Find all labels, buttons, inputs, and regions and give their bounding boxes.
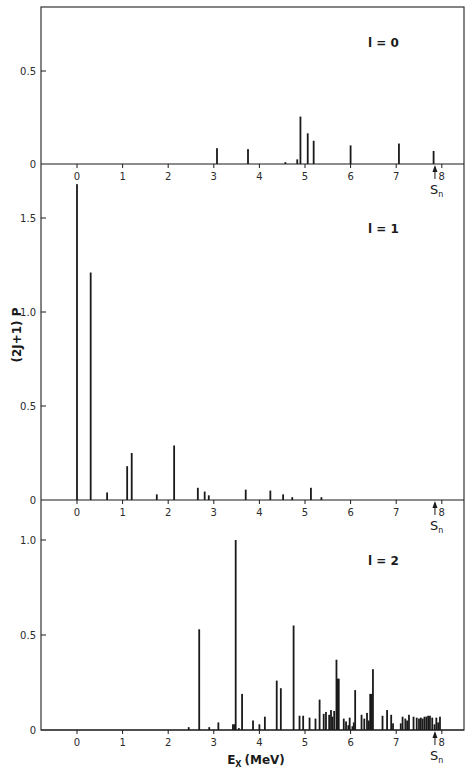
strength-bar (338, 679, 340, 730)
strength-bar (331, 717, 333, 730)
strength-bar (350, 145, 352, 164)
strength-bar (325, 712, 327, 730)
y-tick-label: 0.5 (20, 630, 36, 641)
strength-bar (408, 715, 410, 730)
strength-bar (349, 718, 351, 730)
sn-label-sub: n (438, 526, 443, 535)
strength-bar (345, 721, 347, 730)
strength-bar (366, 713, 368, 730)
strength-bar (363, 719, 365, 730)
strength-bar (321, 497, 323, 500)
x-tick-label: 5 (302, 171, 308, 182)
strength-bar (269, 491, 271, 500)
strength-bar (361, 715, 363, 730)
x-tick-label: 2 (165, 507, 171, 518)
strength-bar (238, 728, 240, 730)
strength-bar (439, 717, 441, 730)
sn-label: Sn (430, 182, 443, 199)
strength-bar (204, 492, 206, 500)
y-tick-label: 1.5 (20, 213, 36, 224)
x-tick-label: 2 (165, 737, 171, 748)
y-tick-label: 0 (30, 495, 36, 506)
strength-bar (235, 540, 237, 730)
panel-label: l = 2 (368, 554, 399, 568)
strength-bar (307, 133, 309, 164)
y-tick-label: 0.5 (20, 401, 36, 412)
strength-bar (259, 724, 261, 730)
strength-bar (437, 722, 439, 730)
y-tick-label: 0 (30, 159, 36, 170)
strength-bar (282, 494, 284, 500)
x-tick-label: 7 (393, 737, 399, 748)
strength-bar (245, 490, 247, 500)
x-tick-label: 6 (347, 171, 353, 182)
plot-frame (41, 7, 464, 730)
strength-bar (390, 715, 392, 730)
x-tick-label: 8 (439, 171, 445, 182)
panel-l2: 00.51.0012345678Snl = 2 (20, 535, 464, 765)
x-tick-label: 7 (393, 171, 399, 182)
strength-bar (217, 722, 219, 730)
x-tick-label: 2 (165, 171, 171, 182)
strength-bar (197, 488, 199, 500)
strength-bar (431, 718, 433, 730)
sn-label: Sn (430, 748, 443, 765)
strength-bar (434, 724, 436, 730)
x-tick-label: 0 (74, 507, 80, 518)
y-tick-label: 1.0 (20, 535, 36, 546)
strength-bar (313, 141, 315, 164)
strength-bar (131, 453, 133, 500)
strength-bar (402, 717, 404, 730)
x-tick-label: 7 (393, 507, 399, 518)
strength-bar (252, 721, 254, 731)
strength-bar (425, 717, 427, 730)
strength-bar (404, 719, 406, 730)
strength-bar (372, 669, 374, 730)
strength-bar (416, 718, 418, 730)
x-tick-label: 1 (119, 737, 125, 748)
x-axis-title-unit: (MeV) (245, 753, 285, 767)
strength-bar (400, 723, 402, 730)
strength-bar (106, 492, 108, 500)
x-tick-label: 3 (211, 737, 217, 748)
strength-bar (90, 273, 92, 500)
strength-bar (241, 694, 243, 730)
x-tick-label: 6 (347, 737, 353, 748)
strength-bar (188, 727, 190, 730)
strength-bar (216, 148, 218, 164)
strength-bar (173, 445, 175, 500)
strength-bar (382, 716, 384, 730)
strength-bar (429, 716, 431, 730)
strength-bar (424, 717, 426, 730)
strength-bar (247, 149, 249, 164)
strength-bar (420, 718, 422, 730)
strength-bar (310, 488, 312, 500)
strength-bar (418, 719, 420, 730)
figure-frame (41, 7, 464, 730)
strength-bar (76, 184, 78, 500)
strength-bar (319, 700, 321, 730)
x-tick-label: 8 (439, 507, 445, 518)
strength-bar (284, 162, 286, 164)
strength-bar (302, 716, 304, 730)
strength-bar (333, 711, 335, 730)
x-tick-label: 0 (74, 171, 80, 182)
x-axis-title-main: E (227, 753, 235, 767)
y-tick-label: 0.5 (20, 66, 36, 77)
strength-bar (315, 719, 317, 730)
strength-bar (208, 727, 210, 730)
strength-bar (208, 495, 210, 500)
panel-l0: 00.5012345678Snl = 0 (20, 36, 464, 199)
strength-bar (354, 690, 356, 730)
x-tick-label: 1 (119, 171, 125, 182)
strength-bar (300, 117, 302, 164)
strength-bar (291, 497, 293, 500)
strength-bar (328, 715, 330, 730)
x-tick-label: 3 (211, 507, 217, 518)
sn-label-sub: n (438, 190, 443, 199)
sn-arrow-icon (432, 731, 437, 738)
y-axis-title: (2J+1) P (10, 307, 24, 362)
x-tick-label: 5 (302, 507, 308, 518)
x-axis-title-sub: X (235, 760, 242, 769)
strength-bar (435, 718, 437, 730)
